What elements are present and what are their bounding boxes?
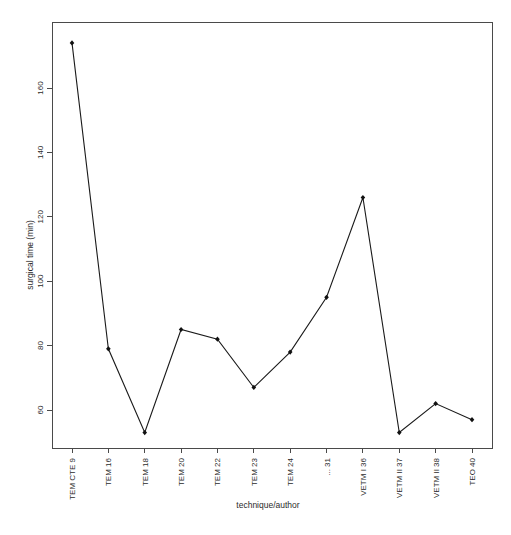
data-point (361, 195, 366, 200)
x-axis-ticks (72, 448, 472, 453)
y-tick-label: 80 (36, 341, 45, 350)
data-series (72, 43, 472, 433)
y-axis-tick-labels: 6080100120140160 (36, 81, 45, 415)
y-tick-label: 60 (36, 405, 45, 414)
plot-frame (52, 22, 492, 448)
x-tick-label: TEM 24 (286, 457, 295, 486)
y-tick-label: 140 (36, 145, 45, 159)
x-axis-title: technique/author (236, 500, 299, 510)
data-point (106, 346, 111, 351)
x-tick-label: TEM 23 (250, 457, 259, 486)
x-tick-label: TEM 20 (177, 457, 186, 486)
x-tick-label: TEM 18 (141, 457, 150, 486)
x-tick-label: VETM II 37 (395, 457, 404, 498)
x-tick-label: TEM 16 (104, 457, 113, 486)
x-tick-label: VETM I 36 (359, 457, 368, 495)
data-point (470, 417, 475, 422)
y-axis-title: surgical time (min) (25, 220, 35, 290)
chart-container: 6080100120140160 TEM CTE 9TEM 16TEM 18TE… (0, 0, 511, 535)
y-tick-label: 100 (36, 274, 45, 288)
x-axis-category-labels: TEM CTE 9TEM 16TEM 18TEM 20TEM 22TEM 23T… (68, 457, 477, 499)
x-tick-label: TEM CTE 9 (68, 457, 77, 499)
x-tick-label: TEM 22 (213, 457, 222, 486)
x-tick-label: ... 31 (323, 457, 332, 475)
data-point (179, 327, 184, 332)
data-point (70, 40, 75, 45)
x-tick-label: VETM II 38 (432, 457, 441, 498)
data-point (142, 430, 147, 435)
data-point-markers (70, 40, 475, 435)
y-tick-label: 120 (36, 210, 45, 224)
line-chart: 6080100120140160 TEM CTE 9TEM 16TEM 18TE… (0, 0, 511, 535)
y-axis-ticks (47, 88, 52, 410)
x-tick-label: TEO 40 (468, 457, 477, 485)
y-tick-label: 160 (36, 81, 45, 95)
